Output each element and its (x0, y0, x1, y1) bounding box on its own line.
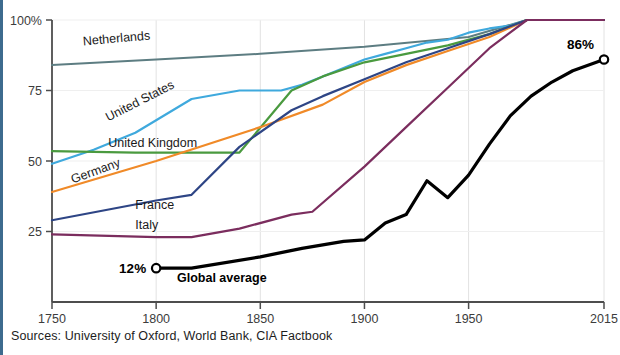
x-tick-label: 2015 (590, 312, 618, 326)
x-tick-label: 1750 (38, 312, 66, 326)
source-note: Sources: University of Oxford, World Ban… (11, 329, 332, 343)
series-label-germany: Germany (69, 155, 123, 186)
global-average-start-marker (152, 264, 160, 272)
y-tick-label: 100% (10, 14, 42, 28)
chart-figure: NetherlandsUnited StatesUnited KingdomGe… (0, 0, 620, 355)
y-tick-label: 75 (28, 84, 42, 98)
y-tick-labels: 255075100% (10, 14, 42, 240)
global-average-end-value: 86% (567, 37, 594, 52)
line-chart: NetherlandsUnited StatesUnited KingdomGe… (3, 0, 620, 355)
x-tick-labels: 175018001850190019502015 (38, 312, 618, 326)
x-tick-label: 1850 (246, 312, 274, 326)
y-tick-label: 50 (28, 155, 42, 169)
global-average-end-marker (600, 55, 608, 63)
series-label-france: France (135, 198, 174, 212)
grid-lines (52, 20, 604, 302)
series-label-italy: Italy (135, 218, 159, 232)
x-tick-label: 1800 (142, 312, 170, 326)
y-tick-label: 25 (28, 225, 42, 239)
series-label-united-kingdom: United Kingdom (108, 136, 197, 150)
global-average-start-value: 12% (119, 261, 146, 276)
x-tick-label: 1950 (455, 312, 483, 326)
x-tick-label: 1900 (351, 312, 379, 326)
series-label-united-states: United States (103, 78, 176, 125)
series-label-netherlands: Netherlands (82, 29, 150, 49)
global-average-name-text: Global average (177, 271, 267, 285)
